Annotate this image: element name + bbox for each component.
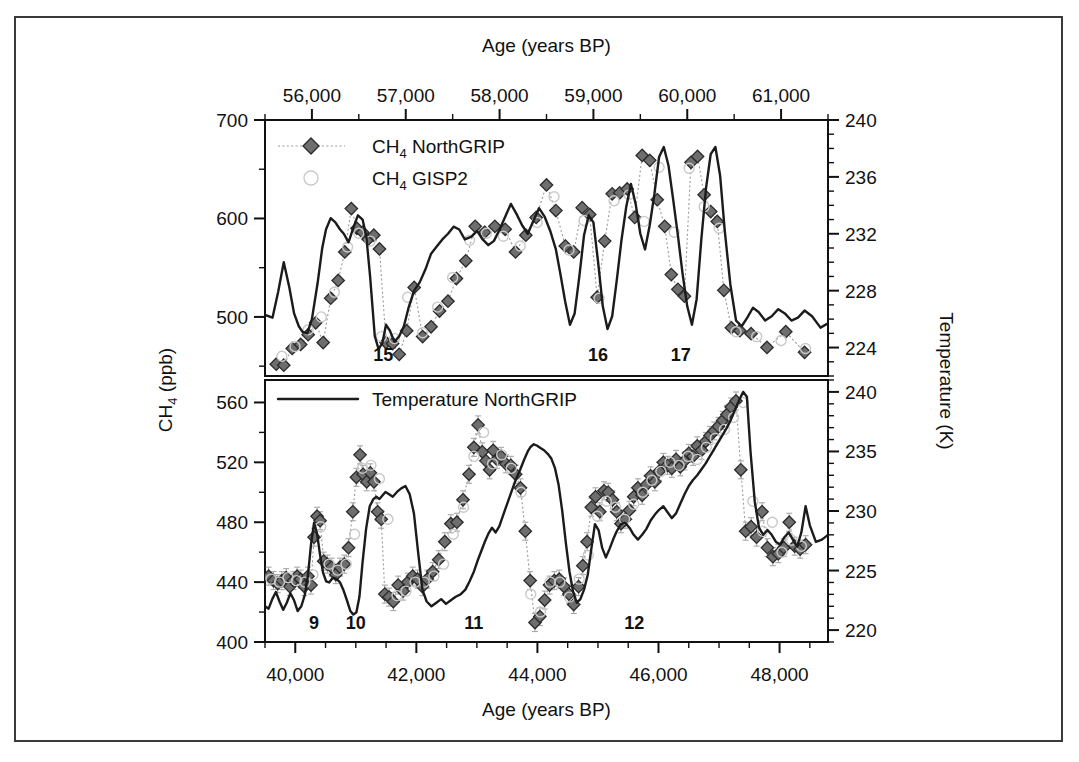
- chart-figure: 56,00057,00058,00059,00060,00061,0005006…: [0, 0, 1079, 762]
- y-tick-label-right: 236: [845, 167, 877, 188]
- event-label: 12: [624, 613, 644, 633]
- y-tick-label-right: 240: [845, 382, 877, 403]
- data-point-marker: [776, 336, 786, 346]
- x-tick-label: 40,000: [266, 664, 324, 685]
- data-point-marker: [393, 348, 405, 360]
- y-axis-right-top-panel: 224228232236240: [828, 110, 877, 376]
- legend-temperature-label: Temperature NorthGRIP: [372, 389, 577, 410]
- data-point-marker: [354, 449, 366, 461]
- y-tick-label: 600: [216, 208, 248, 229]
- left-axis-title-prefix: CH: [155, 405, 176, 432]
- y-tick-label-right: 240: [845, 110, 877, 131]
- x-tick-label: 56,000: [283, 85, 341, 106]
- legend-ch4-gisp2-marker: [304, 171, 318, 185]
- data-point-marker: [665, 268, 677, 280]
- data-point-marker: [324, 292, 336, 304]
- data-point-marker: [347, 506, 359, 518]
- y-tick-label-right: 235: [845, 441, 877, 462]
- right-axis-title-text: Temperature (K): [936, 312, 957, 449]
- left-axis-title-text: CH4 (ppb): [155, 348, 180, 432]
- left-axis-title: CH4 (ppb): [155, 348, 180, 432]
- series-ch4-gisp2-markers: [277, 162, 811, 361]
- y-axis-left-bottom-panel: 400440480520560: [216, 392, 265, 653]
- top-axis-title: Age (years BP): [482, 35, 611, 56]
- legend-bottom: Temperature NorthGRIP: [278, 389, 577, 410]
- y-tick-label: 700: [216, 110, 248, 131]
- y-tick-label: 440: [216, 572, 248, 593]
- x-tick-label: 42,000: [387, 664, 445, 685]
- legend-label-subscript: 4: [399, 178, 406, 193]
- data-point-marker: [350, 529, 360, 539]
- x-axis-top-panel: 56,00057,00058,00059,00060,00061,000: [265, 85, 828, 120]
- right-axis-title: Temperature (K): [936, 312, 957, 449]
- x-tick-label: 61,000: [752, 85, 810, 106]
- legend-top: CH4 NorthGRIPCH4 GISP2: [278, 136, 505, 193]
- y-tick-label-right: 220: [845, 620, 877, 641]
- data-point-marker: [711, 215, 723, 227]
- event-label: 16: [588, 345, 608, 365]
- legend-ch4-northgrip-marker: [303, 138, 319, 154]
- event-label: 9: [309, 613, 319, 633]
- series-ch4-northgrip-connector: [276, 155, 804, 365]
- legend-label-suffix: NorthGRIP: [407, 136, 505, 157]
- event-labels-top-panel: 151617: [373, 345, 690, 365]
- legend-ch4-northgrip-label: CH4 NorthGRIP: [372, 136, 505, 161]
- x-tick-label: 58,000: [471, 85, 529, 106]
- x-axis-bottom-panel: 40,00042,00044,00046,00048,000: [265, 642, 810, 685]
- data-point-marker: [277, 351, 287, 361]
- data-point-marker: [767, 517, 777, 527]
- legend-label-prefix: CH: [372, 168, 399, 189]
- data-point-marker: [373, 243, 385, 255]
- x-tick-label: 48,000: [751, 664, 809, 685]
- data-point-marker: [540, 179, 552, 191]
- plot-area-bottom-panel: [262, 392, 828, 632]
- y-axis-left-top-panel: 500600700: [216, 110, 265, 366]
- x-tick-label: 59,000: [564, 85, 622, 106]
- event-labels-bottom-panel: 9101112: [309, 613, 644, 633]
- data-point-marker: [342, 541, 354, 553]
- data-point-marker: [718, 284, 730, 296]
- data-point-marker: [472, 419, 484, 431]
- event-label: 17: [671, 345, 691, 365]
- y-tick-label: 400: [216, 632, 248, 653]
- data-point-marker: [735, 464, 747, 476]
- bottom-axis-title: Age (years BP): [482, 699, 611, 720]
- y-tick-label: 560: [216, 392, 248, 413]
- data-point-marker: [639, 216, 649, 226]
- data-point-marker: [519, 525, 531, 537]
- y-tick-label-right: 225: [845, 561, 877, 582]
- y-tick-label: 500: [216, 307, 248, 328]
- data-point-marker: [317, 336, 329, 348]
- y-tick-label-right: 228: [845, 281, 877, 302]
- data-point-marker: [479, 427, 489, 437]
- x-tick-label: 46,000: [629, 664, 687, 685]
- data-point-marker: [460, 255, 472, 267]
- y-axis-right-bottom-panel: 220225230235240: [828, 380, 877, 642]
- y-tick-label: 520: [216, 452, 248, 473]
- data-point-marker: [524, 574, 536, 586]
- y-tick-label-right: 230: [845, 501, 877, 522]
- y-tick-label: 480: [216, 512, 248, 533]
- plot-frame-top-panel: [265, 120, 828, 376]
- data-point-marker: [550, 204, 562, 216]
- legend-ch4-gisp2-label: CH4 GISP2: [372, 168, 468, 193]
- data-point-marker: [448, 529, 458, 539]
- legend-label-suffix: GISP2: [407, 168, 468, 189]
- y-tick-label-right: 232: [845, 224, 877, 245]
- data-point-marker: [598, 235, 610, 247]
- chart-canvas: 56,00057,00058,00059,00060,00061,0005006…: [0, 0, 1079, 762]
- panel-top-panel: 56,00057,00058,00059,00060,00061,0005006…: [216, 85, 877, 376]
- data-point-marker: [345, 202, 357, 214]
- event-label: 15: [373, 345, 393, 365]
- data-point-marker: [316, 312, 326, 322]
- x-tick-label: 57,000: [377, 85, 435, 106]
- data-point-marker: [783, 516, 795, 528]
- series-temperature-line: [265, 147, 828, 349]
- left-axis-title-subscript: 4: [165, 397, 180, 404]
- data-point-marker: [745, 327, 757, 339]
- legend-label-prefix: CH: [372, 136, 399, 157]
- event-label: 11: [464, 613, 483, 633]
- plot-area-top-panel: [265, 147, 828, 371]
- data-point-marker: [332, 274, 344, 286]
- series-ch4-northgrip-markers: [270, 149, 811, 371]
